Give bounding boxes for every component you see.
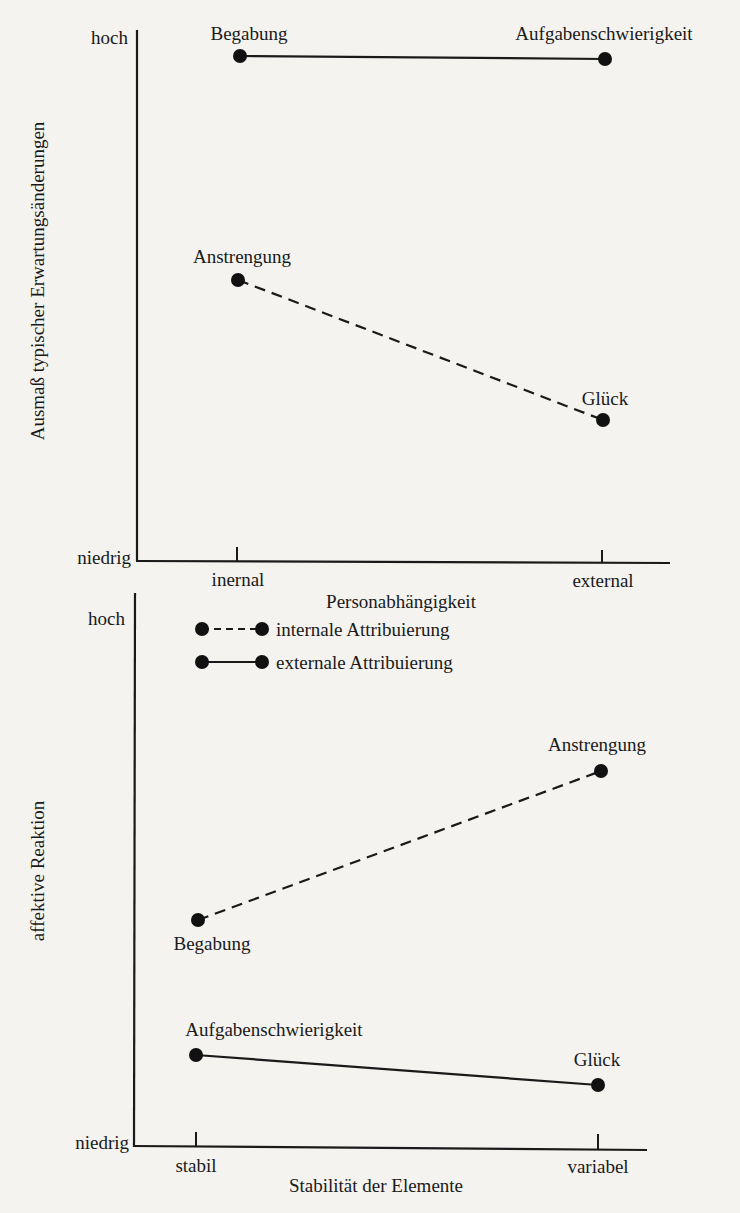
bottom-label-begabung: Begabung [173,933,251,954]
bottom-y-axis [134,593,135,1147]
bottom-solid-line [196,1055,598,1085]
top-label-begabung: Begabung [210,23,288,44]
bottom-point-aufgabenschwierigkeit [189,1048,203,1062]
top-label-aufgabenschwierigkeit: Aufgabenschwierigkeit [515,23,693,44]
bottom-x-axis [133,1146,647,1150]
legend-item-external: externale Attribuierung [195,652,453,673]
top-point-aufgabenschwierigkeit [598,52,612,66]
legend: internale Attribuierung externale Attrib… [195,619,453,673]
top-point-anstrengung [231,273,245,287]
top-y-low-label: niedrig [77,547,131,568]
top-label-glueck: Glück [582,388,629,409]
legend-item-internal: internale Attribuierung [195,619,450,640]
bottom-point-anstrengung [594,764,608,778]
top-solid-line [240,56,605,59]
legend-dot-icon [255,655,269,669]
bottom-label-glueck: Glück [574,1049,621,1070]
top-y-high-label: hoch [91,27,128,48]
bottom-label-anstrengung: Anstrengung [548,734,647,755]
bottom-y-high-label: hoch [88,608,125,629]
top-y-axis-title: Ausmaß typischer Erwartungsänderungen [27,121,48,440]
top-x-tick-internal: inernal [212,569,265,590]
top-chart: hoch niedrig Ausmaß typischer Erwartungs… [27,23,693,612]
bottom-x-tick-variabel: variabel [567,1156,628,1177]
top-x-axis [136,561,670,563]
top-point-glueck [596,413,610,427]
top-x-tick-external: external [572,570,633,591]
bottom-x-tick-stabil: stabil [175,1155,216,1176]
bottom-dashed-line [198,771,601,920]
attribution-charts: hoch niedrig Ausmaß typischer Erwartungs… [0,0,740,1213]
top-x-axis-title: Personabhängigkeit [326,591,477,612]
bottom-point-glueck [591,1078,605,1092]
bottom-y-axis-title: affektive Reaktion [27,800,48,941]
bottom-label-aufgabenschwierigkeit: Aufgabenschwierigkeit [185,1019,363,1040]
legend-dot-icon [195,655,209,669]
top-dashed-line [238,280,603,420]
legend-label-external: externale Attribuierung [276,652,453,673]
top-label-anstrengung: Anstrengung [193,246,292,267]
bottom-chart: hoch niedrig affektive Reaktion stabil v… [27,593,647,1196]
legend-dot-icon [195,622,209,636]
bottom-y-low-label: niedrig [75,1132,129,1153]
top-point-begabung [233,49,247,63]
legend-label-internal: internale Attribuierung [276,619,450,640]
legend-dot-icon [255,622,269,636]
bottom-point-begabung [191,913,205,927]
bottom-x-axis-title: Stabilität der Elemente [289,1175,463,1196]
